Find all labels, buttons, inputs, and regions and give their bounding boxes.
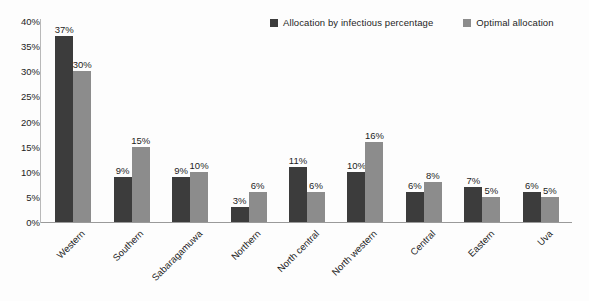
bar-group: 6%8% — [395, 21, 453, 222]
bar-value-label: 6% — [251, 180, 265, 191]
bar-group: 7%5% — [453, 21, 511, 222]
bar[interactable] — [249, 192, 267, 222]
y-axis: 0%5%10%15%20%25%30%35%40% — [0, 0, 40, 301]
bar-value-label: 16% — [365, 130, 384, 141]
bar-value-label: 10% — [190, 160, 209, 171]
x-axis-tick-label: North western — [330, 228, 380, 278]
plot-area: 37%30%9%15%9%10%3%6%11%6%10%16%6%8%7%5%6… — [44, 21, 570, 222]
bar-value-label: 5% — [543, 185, 557, 196]
bar[interactable] — [73, 71, 91, 222]
bar[interactable] — [464, 187, 482, 222]
y-axis-tick-label: 35% — [4, 41, 40, 52]
bar[interactable] — [523, 192, 541, 222]
bar-value-label: 9% — [174, 165, 188, 176]
bar[interactable] — [231, 207, 249, 222]
bar-group: 6%5% — [512, 21, 570, 222]
y-axis-tick-label: 25% — [4, 91, 40, 102]
bar-group: 9%10% — [161, 21, 219, 222]
bar-value-label: 6% — [408, 180, 422, 191]
bar-value-label: 6% — [309, 180, 323, 191]
bar-value-label: 5% — [484, 185, 498, 196]
bar-value-label: 7% — [466, 175, 480, 186]
y-axis-tick-label: 0% — [4, 217, 40, 228]
bar-chart: Allocation by infectious percentage Opti… — [0, 0, 589, 301]
bar-value-label: 30% — [73, 59, 92, 70]
bar[interactable] — [55, 36, 73, 222]
x-axis-tick-label: Sabaragamuwa — [149, 228, 204, 283]
y-axis-tick-label: 30% — [4, 66, 40, 77]
bar[interactable] — [190, 172, 208, 222]
bar-group: 10%16% — [336, 21, 394, 222]
bar-value-label: 6% — [525, 180, 539, 191]
bar-value-label: 9% — [116, 165, 130, 176]
bar-value-label: 8% — [426, 170, 440, 181]
bar-value-label: 11% — [289, 155, 307, 166]
x-axis-tick-label: North central — [275, 228, 321, 274]
bar[interactable] — [114, 177, 132, 222]
bar[interactable] — [406, 192, 424, 222]
bar[interactable] — [132, 147, 150, 222]
bar-value-label: 10% — [347, 160, 366, 171]
bar[interactable] — [482, 197, 500, 222]
bar[interactable] — [289, 167, 307, 222]
bar-value-label: 15% — [131, 135, 150, 146]
bar-group: 3%6% — [219, 21, 277, 222]
bar-group: 37%30% — [44, 21, 102, 222]
bar-group: 9%15% — [102, 21, 160, 222]
x-axis-tick-label: Northern — [228, 228, 262, 262]
x-axis-tick-label: Uva — [535, 228, 555, 248]
y-axis-tick-label: 10% — [4, 166, 40, 177]
x-axis-tick-label: Southern — [110, 228, 145, 263]
x-axis-line — [41, 222, 572, 223]
y-axis-tick-label: 15% — [4, 141, 40, 152]
y-axis-tick-label: 5% — [4, 191, 40, 202]
y-axis-tick-label: 40% — [4, 16, 40, 27]
x-axis-tick-label: Central — [408, 228, 437, 257]
bar[interactable] — [347, 172, 365, 222]
bar[interactable] — [541, 197, 559, 222]
bar-group: 11%6% — [278, 21, 336, 222]
bar[interactable] — [172, 177, 190, 222]
bar[interactable] — [424, 182, 442, 222]
bar[interactable] — [307, 192, 325, 222]
y-axis-tick-label: 20% — [4, 116, 40, 127]
bar-value-label: 37% — [55, 24, 74, 35]
bar[interactable] — [365, 142, 383, 222]
x-axis-tick-label: Eastern — [465, 228, 496, 259]
x-axis-tick-label: Western — [54, 228, 87, 261]
y-axis-line — [40, 19, 41, 223]
bar-value-label: 3% — [233, 195, 247, 206]
